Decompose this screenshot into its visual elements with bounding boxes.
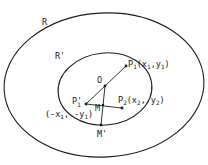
point-p1prime [85, 103, 88, 106]
label-m: M [95, 103, 100, 113]
label-r: R [42, 17, 48, 27]
label-o: O [97, 75, 102, 85]
point-mprime [100, 124, 103, 127]
label-p1: P1(x1,y1) [128, 59, 170, 70]
diagram-canvas: R R' O P1(x1,y1) P'1 (-x1, -y1) P2(x2, y… [0, 0, 208, 165]
point-o [104, 85, 107, 88]
point-p2 [121, 107, 124, 110]
label-p2: P2(x2, y2) [118, 95, 165, 106]
label-p1prime-coords: (-x1, -y1) [45, 109, 93, 120]
label-r-prime: R' [55, 51, 65, 61]
label-p1prime: P'1 [72, 96, 82, 108]
point-m [102, 104, 104, 106]
point-p1 [125, 65, 128, 68]
label-mprime: M' [97, 129, 107, 139]
